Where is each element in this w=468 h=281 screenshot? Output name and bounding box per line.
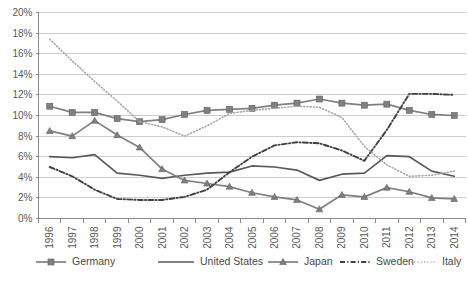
legend-label: Germany (72, 255, 116, 267)
legend-item-germany[interactable]: Germany (36, 255, 116, 267)
x-axis-tick-label: 2009 (336, 226, 347, 249)
x-axis-tick-label: 2002 (179, 226, 190, 249)
y-axis-tick-label: 14% (12, 69, 32, 80)
chart-container: 0%2%4%6%8%10%12%14%16%18%20%199619971998… (0, 0, 468, 281)
data-point-marker (159, 117, 165, 123)
data-point-marker (384, 101, 390, 107)
data-point-marker (47, 103, 53, 109)
legend-item-italy[interactable]: Italy (408, 255, 462, 267)
y-axis-tick-label: 0% (18, 213, 33, 224)
y-axis-tick-label: 6% (18, 151, 33, 162)
y-axis-tick-label: 20% (12, 7, 32, 18)
legend-item-japan[interactable]: Japan (268, 255, 333, 267)
y-axis-tick-label: 4% (18, 172, 33, 183)
legend-label: Japan (304, 255, 333, 267)
x-axis-tick-label: 2013 (426, 226, 437, 249)
x-axis-tick-label: 2004 (224, 226, 235, 249)
data-point-marker (204, 107, 210, 113)
data-point-marker (46, 128, 53, 134)
series-group (46, 39, 457, 212)
x-axis-tick-label: 2012 (404, 226, 415, 249)
data-point-marker (91, 117, 98, 123)
x-axis-tick-label: 2007 (291, 226, 302, 249)
x-axis-tick-label: 2003 (202, 226, 213, 249)
y-axis-tick-label: 18% (12, 28, 32, 39)
y-axis-tick-label: 16% (12, 48, 32, 59)
x-axis-tick-label: 2010 (359, 226, 370, 249)
line-chart: 0%2%4%6%8%10%12%14%16%18%20%199619971998… (0, 0, 468, 281)
data-point-marker (339, 100, 345, 106)
data-point-marker (451, 113, 457, 119)
x-axis: 1996199719981999200020012002200320042005… (39, 219, 466, 249)
legend-item-united-states[interactable]: United States (158, 255, 263, 267)
y-axis-tick-label: 10% (12, 110, 32, 121)
data-point-marker (182, 111, 188, 117)
legend: GermanyUnited StatesJapanSwedenItaly (36, 255, 462, 267)
data-point-marker (271, 102, 277, 108)
legend-label: United States (200, 255, 263, 267)
legend-label: Italy (442, 255, 462, 267)
x-axis-tick-label: 1997 (67, 226, 78, 249)
x-axis-tick-label: 1998 (89, 226, 100, 249)
gridlines: 0%2%4%6%8%10%12%14%16%18%20% (12, 7, 465, 224)
data-point-marker (316, 96, 322, 102)
data-point-marker (429, 111, 435, 117)
series-germany (47, 96, 458, 125)
y-axis-tick-label: 2% (18, 192, 33, 203)
y-axis-tick-label: 12% (12, 89, 32, 100)
data-point-marker (114, 116, 120, 122)
data-point-marker (69, 109, 75, 115)
y-axis-tick-label: 8% (18, 131, 33, 142)
x-axis-tick-label: 2006 (269, 226, 280, 249)
data-point-marker (227, 106, 233, 112)
data-point-marker (92, 109, 98, 115)
data-point-marker (406, 107, 412, 113)
legend-swatch-marker (48, 259, 54, 265)
x-axis-tick-label: 1999 (112, 226, 123, 249)
legend-item-sweden[interactable]: Sweden (340, 255, 414, 267)
x-axis-tick-label: 2011 (381, 226, 392, 248)
x-axis-tick-label: 2000 (134, 226, 145, 249)
x-axis-tick-label: 2008 (314, 226, 325, 249)
x-axis-tick-label: 2001 (157, 226, 168, 249)
data-point-marker (294, 100, 300, 106)
x-axis-tick-label: 2014 (449, 226, 460, 249)
x-axis-tick-label: 1996 (44, 226, 55, 249)
data-point-marker (361, 102, 367, 108)
x-axis-tick-label: 2005 (247, 226, 258, 249)
